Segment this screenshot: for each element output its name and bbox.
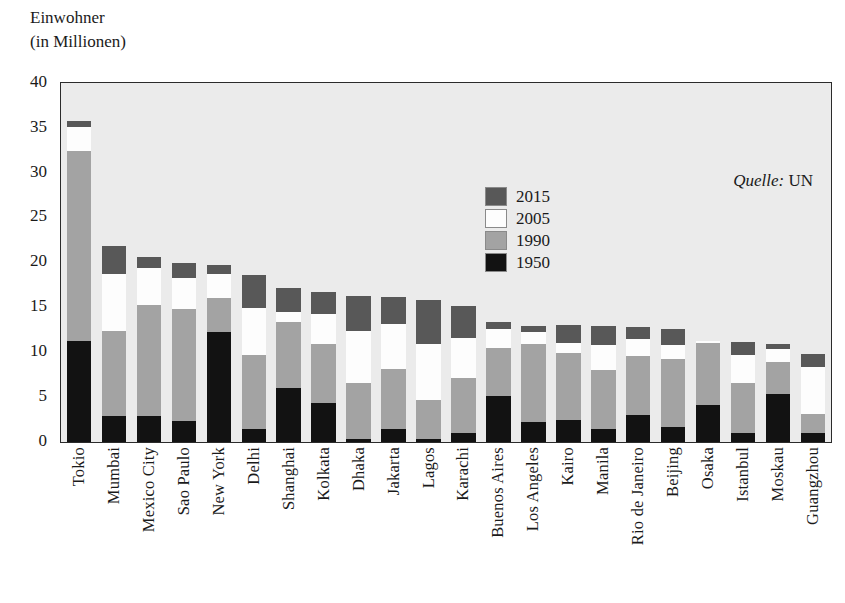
x-axis-label: Mumbai bbox=[104, 447, 124, 504]
x-axis-label: Jakarta bbox=[384, 447, 404, 495]
bar-segment-1990 bbox=[311, 344, 335, 402]
bar-segment-2005 bbox=[381, 324, 405, 369]
bar-segment-1990 bbox=[67, 151, 91, 341]
bar-stack bbox=[731, 84, 755, 443]
bar-segment-2015 bbox=[207, 265, 231, 274]
x-axis-label: Beijing bbox=[663, 447, 683, 497]
bar-segment-2005 bbox=[661, 345, 685, 358]
bar-segment-1990 bbox=[102, 331, 126, 416]
bar-segment-1950 bbox=[556, 420, 580, 442]
x-axis-label: Istanbul bbox=[733, 447, 753, 502]
bar-segment-2005 bbox=[556, 343, 580, 354]
bar-segment-1990 bbox=[346, 383, 370, 439]
bar-segment-1950 bbox=[661, 427, 685, 442]
bar-segment-2015 bbox=[486, 322, 510, 329]
y-axis-tick-label: 25 bbox=[30, 206, 47, 226]
bar-segment-2005 bbox=[766, 349, 790, 362]
bar-segment-2015 bbox=[137, 257, 161, 269]
bar-segment-2005 bbox=[801, 367, 825, 415]
x-axis-label: New York bbox=[209, 447, 229, 516]
bar-segment-1950 bbox=[276, 388, 300, 442]
bar-segment-1950 bbox=[381, 429, 405, 442]
x-axis-label: Manila bbox=[593, 447, 613, 495]
bar-segment-1990 bbox=[731, 383, 755, 433]
bar-segment-2015 bbox=[766, 344, 790, 348]
bar-segment-1990 bbox=[661, 359, 685, 427]
y-axis-tick-label: 30 bbox=[30, 162, 47, 182]
bar-segment-1950 bbox=[416, 439, 440, 442]
y-axis-tick-label: 10 bbox=[30, 341, 47, 361]
bar-segment-1950 bbox=[102, 416, 126, 442]
bar-stack bbox=[661, 84, 685, 443]
bar-segment-1950 bbox=[346, 439, 370, 442]
bar-segment-1990 bbox=[416, 400, 440, 439]
bar-segment-2005 bbox=[731, 355, 755, 383]
bar-segment-1990 bbox=[556, 353, 580, 419]
bar-stack bbox=[556, 84, 580, 443]
bar-segment-2005 bbox=[276, 312, 300, 322]
y-axis-tick-label: 0 bbox=[39, 431, 48, 451]
bar-segment-1950 bbox=[521, 422, 545, 442]
bar-stack bbox=[766, 84, 790, 443]
bar-segment-1990 bbox=[242, 355, 266, 429]
bar-segment-2005 bbox=[521, 332, 545, 345]
bar-stack bbox=[381, 84, 405, 443]
bar-stack bbox=[696, 84, 720, 443]
bar-segment-2015 bbox=[346, 296, 370, 331]
bar-segment-2015 bbox=[626, 327, 650, 339]
bar-segment-2015 bbox=[451, 306, 475, 338]
bar-segment-2005 bbox=[346, 331, 370, 383]
bar-stack bbox=[416, 84, 440, 443]
x-axis-label: Los Angeles bbox=[523, 447, 543, 531]
bar-segment-2015 bbox=[556, 325, 580, 343]
bar-segment-2015 bbox=[276, 288, 300, 312]
y-axis-tick-label: 20 bbox=[30, 251, 47, 271]
bar-stack bbox=[137, 84, 161, 443]
bar-group bbox=[62, 84, 831, 443]
bar-segment-1950 bbox=[67, 341, 91, 442]
bar-stack bbox=[591, 84, 615, 443]
bar-stack bbox=[242, 84, 266, 443]
y-axis-tick-label: 15 bbox=[30, 296, 47, 316]
bar-segment-1950 bbox=[766, 394, 790, 442]
x-axis-label: Delhi bbox=[244, 447, 264, 485]
axis-title: Einwohner (in Millionen) bbox=[30, 6, 126, 54]
x-axis-label: Kolkata bbox=[314, 447, 334, 501]
bar-stack bbox=[311, 84, 335, 443]
bar-segment-1950 bbox=[486, 396, 510, 442]
bar-segment-1950 bbox=[696, 405, 720, 442]
bar-segment-1990 bbox=[207, 298, 231, 332]
bar-segment-2015 bbox=[731, 342, 755, 355]
x-axis-label: Kairo bbox=[558, 447, 578, 486]
x-axis-label: Karachi bbox=[453, 447, 473, 501]
bar-segment-2015 bbox=[102, 246, 126, 274]
bar-segment-2005 bbox=[242, 308, 266, 356]
bar-segment-2015 bbox=[591, 326, 615, 345]
x-axis-label: Buenos Aires bbox=[488, 447, 508, 538]
bar-segment-1950 bbox=[591, 429, 615, 442]
bar-segment-2015 bbox=[416, 300, 440, 344]
bar-segment-1990 bbox=[486, 348, 510, 396]
bar-stack bbox=[276, 84, 300, 443]
x-axis-label: Sao Paulo bbox=[174, 447, 194, 515]
bar-segment-1990 bbox=[626, 356, 650, 415]
bar-segment-2005 bbox=[486, 329, 510, 348]
bar-segment-2005 bbox=[311, 314, 335, 344]
y-axis: 0510152025303540 bbox=[0, 82, 60, 443]
y-axis-tick-label: 35 bbox=[30, 117, 47, 137]
bar-stack bbox=[451, 84, 475, 443]
bar-stack bbox=[801, 84, 825, 443]
bar-segment-2005 bbox=[451, 338, 475, 378]
x-axis-label: Tokio bbox=[69, 447, 89, 486]
bar-segment-2015 bbox=[172, 263, 196, 278]
bar-stack bbox=[486, 84, 510, 443]
bar-segment-2015 bbox=[311, 292, 335, 314]
bar-segment-1990 bbox=[137, 305, 161, 416]
x-axis-label: Mexico City bbox=[139, 447, 159, 532]
bar-segment-2015 bbox=[801, 354, 825, 367]
bar-stack bbox=[521, 84, 545, 443]
y-axis-tick-label: 5 bbox=[39, 386, 48, 406]
bar-segment-1950 bbox=[626, 415, 650, 442]
bar-segment-1990 bbox=[172, 309, 196, 421]
y-axis-tick-label: 40 bbox=[30, 72, 47, 92]
